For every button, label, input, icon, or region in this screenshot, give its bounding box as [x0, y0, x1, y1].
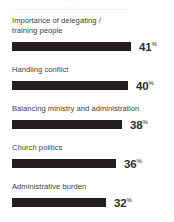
bar-fill	[12, 81, 128, 90]
bar-fill	[12, 120, 122, 129]
percent-sign: %	[143, 119, 148, 125]
bar-fill	[12, 159, 116, 168]
top-partial-circle-artifact	[62, 0, 76, 8]
bar-value-number: 40	[136, 80, 149, 92]
percent-sign: %	[137, 158, 142, 164]
percent-sign: %	[149, 80, 154, 86]
bar-fill	[12, 42, 131, 51]
bar-value: 40%	[136, 80, 154, 92]
top-partial-rule-artifact	[10, 9, 130, 10]
bar-value-number: 38	[130, 119, 143, 131]
bar-fill	[12, 198, 106, 207]
bar-value: 36%	[124, 158, 142, 170]
bar-value-number: 36	[124, 158, 137, 170]
bar-value: 38%	[130, 119, 148, 131]
horizontal-bar-chart: Importance of delegating / training peop…	[0, 0, 174, 222]
percent-sign: %	[127, 197, 132, 203]
bar-value-number: 41	[139, 41, 152, 53]
bar-label: Handling conflict	[12, 65, 170, 75]
bar-row: 41%	[0, 42, 174, 53]
bar-label: Administrative burden	[12, 182, 170, 192]
bar-row: 36%	[0, 159, 174, 170]
bar-row: 38%	[0, 120, 174, 131]
bar-label: Church politics	[12, 143, 170, 153]
bar-value-number: 32	[114, 197, 127, 209]
bar-value: 41%	[139, 41, 157, 53]
bar-row: 40%	[0, 81, 174, 92]
percent-sign: %	[152, 41, 157, 47]
bar-value: 32%	[114, 197, 132, 209]
bar-label: Importance of delegating / training peop…	[12, 16, 170, 35]
bar-row: 32%	[0, 198, 174, 209]
bar-label: Balancing ministry and administration	[12, 104, 170, 114]
